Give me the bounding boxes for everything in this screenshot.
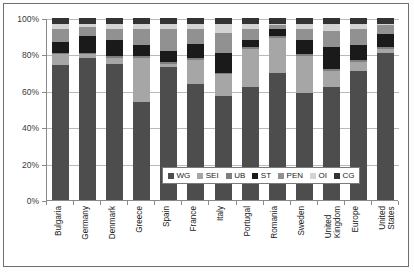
- x-tick-mark: [154, 201, 155, 205]
- stacked-bar[interactable]: [106, 18, 123, 200]
- legend-item-cg[interactable]: CG: [334, 171, 355, 180]
- bar-segment-pen: [296, 29, 313, 40]
- bar-segment-sei: [323, 71, 340, 87]
- legend-item-oi[interactable]: OI: [310, 171, 327, 180]
- bar-segment-sei: [215, 74, 232, 96]
- chart-legend: WGSEIUBSTPENOICG: [162, 167, 360, 184]
- bar-segment-pen: [215, 33, 232, 53]
- legend-item-sei[interactable]: SEI: [197, 171, 218, 180]
- x-tick-label: Europe: [352, 206, 361, 232]
- bar-segment-st: [350, 45, 367, 60]
- stacked-bar[interactable]: [133, 18, 150, 200]
- y-tick-label: 60%: [6, 87, 39, 97]
- x-tick-label: United States: [379, 206, 396, 230]
- bar-segment-wg: [215, 96, 232, 200]
- legend-swatch-icon: [334, 173, 340, 179]
- bar-segment-st: [323, 47, 340, 69]
- legend-label: WG: [177, 171, 191, 180]
- bar-segment-sei: [296, 56, 313, 92]
- stacked-bar[interactable]: [52, 18, 69, 200]
- bar-segment-pen: [377, 25, 394, 34]
- legend-item-ub[interactable]: UB: [226, 171, 246, 180]
- x-tick-label: Greece: [136, 206, 145, 233]
- legend-item-wg[interactable]: WG: [168, 171, 190, 180]
- legend-label: ST: [261, 171, 271, 180]
- x-tick-mark: [263, 201, 264, 205]
- bar-segment-pen: [160, 29, 177, 51]
- legend-label: UB: [234, 171, 245, 180]
- bar-segment-pen: [52, 29, 69, 42]
- bar-segment-pen: [187, 29, 204, 44]
- bar-segment-st: [133, 45, 150, 56]
- bar-segment-st: [106, 40, 123, 56]
- x-tick-mark: [317, 201, 318, 205]
- legend-swatch-icon: [197, 173, 203, 179]
- y-tick-label: 20%: [6, 160, 39, 170]
- chart-figure: 0%20%40%60%80%100% BulgariaGermanyDenmar…: [0, 0, 414, 272]
- y-tick-label: 80%: [6, 50, 39, 60]
- bar-segment-sei: [187, 60, 204, 84]
- bar-segment-sei: [133, 58, 150, 102]
- x-tick-label: Spain: [163, 206, 172, 227]
- bar-segment-pen: [79, 27, 96, 36]
- figure-frame: 0%20%40%60%80%100% BulgariaGermanyDenmar…: [3, 3, 409, 267]
- x-tick-mark: [73, 201, 74, 205]
- bar-segment-st: [269, 29, 286, 36]
- x-tick-label: Sweden: [298, 206, 307, 236]
- bar-segment-wg: [377, 53, 394, 200]
- bar-segment-pen: [133, 29, 150, 45]
- x-tick-label: Portugal: [244, 206, 253, 237]
- y-tick-mark: [42, 128, 46, 129]
- legend-item-st[interactable]: ST: [252, 171, 271, 180]
- y-tick-label: 100%: [6, 14, 39, 24]
- legend-label: SEI: [206, 171, 219, 180]
- y-tick-mark: [42, 19, 46, 20]
- bar-segment-st: [242, 40, 259, 47]
- bar-segment-pen: [350, 29, 367, 45]
- legend-swatch-icon: [310, 173, 316, 179]
- bar-segment-sei: [242, 49, 259, 87]
- bar-segment-st: [377, 34, 394, 47]
- y-tick-mark: [42, 165, 46, 166]
- x-tick-mark: [127, 201, 128, 205]
- x-tick-mark: [46, 201, 47, 205]
- x-tick-label: Bulgaria: [55, 206, 64, 236]
- x-tick-label: Denmark: [109, 206, 118, 239]
- bar-segment-pen: [242, 29, 259, 40]
- legend-label: CG: [342, 171, 354, 180]
- x-tick-mark: [236, 201, 237, 205]
- bar-segment-oi: [215, 24, 232, 33]
- bar-segment-pen: [323, 31, 340, 47]
- legend-label: OI: [319, 171, 327, 180]
- bar-segment-wg: [79, 58, 96, 200]
- bar-segment-st: [296, 40, 313, 55]
- bar-segment-sei: [350, 62, 367, 71]
- legend-swatch-icon: [226, 173, 232, 179]
- x-tick-mark: [344, 201, 345, 205]
- x-tick-label: Italy: [217, 206, 226, 221]
- bar-segment-wg: [106, 64, 123, 201]
- bar-segment-pen: [106, 29, 123, 40]
- x-tick-mark: [181, 201, 182, 205]
- x-tick-mark: [398, 201, 399, 205]
- stacked-bar[interactable]: [79, 18, 96, 200]
- x-tick-label: France: [190, 206, 199, 231]
- y-tick-label: 40%: [6, 123, 39, 133]
- bar-segment-st: [187, 44, 204, 59]
- x-tick-mark: [290, 201, 291, 205]
- bar-segment-st: [215, 53, 232, 73]
- legend-swatch-icon: [252, 173, 258, 179]
- x-tick-mark: [208, 201, 209, 205]
- legend-item-pen[interactable]: PEN: [278, 171, 303, 180]
- bar-segment-oi: [323, 24, 340, 31]
- legend-label: PEN: [287, 171, 303, 180]
- bar-segment-st: [160, 51, 177, 62]
- bar-segment-sei: [269, 38, 286, 73]
- y-tick-mark: [42, 55, 46, 56]
- bar-segment-wg: [133, 102, 150, 200]
- bar-segment-st: [79, 36, 96, 52]
- x-tick-label: Romania: [271, 206, 280, 239]
- stacked-bar[interactable]: [377, 18, 394, 200]
- y-tick-label: 0%: [6, 196, 39, 206]
- legend-swatch-icon: [278, 173, 284, 179]
